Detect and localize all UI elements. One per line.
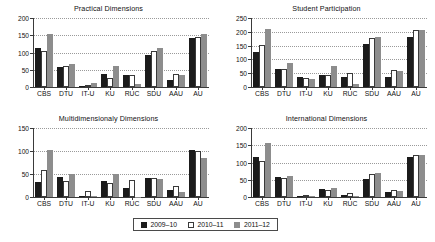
bar-group [295, 18, 317, 87]
bar [157, 179, 162, 197]
x-axis-tick-label: KU [99, 90, 121, 97]
bar [113, 174, 118, 197]
bar [331, 66, 336, 87]
bar-group [273, 18, 295, 87]
white-square-swatch [188, 222, 194, 228]
x-axis-tick-label: IT-U [77, 200, 99, 207]
x-axis-tick-label: IT-U [77, 90, 99, 97]
x-axis-tick-label: SDU [361, 90, 383, 97]
bar-groups [33, 18, 209, 87]
bar-group [273, 128, 295, 197]
bar [41, 51, 46, 87]
bar [113, 66, 118, 87]
x-axis-tick-label: CBS [251, 90, 273, 97]
bar [41, 170, 46, 197]
bar-group [187, 128, 209, 197]
bar-group [405, 128, 427, 197]
bar [189, 150, 194, 197]
bar [287, 176, 292, 197]
x-axis-tick-label: KU [99, 200, 121, 207]
bar [419, 30, 424, 87]
bar [129, 180, 134, 197]
x-axis-labels: CBSDTUIT-UKURUCSDUAAUAU [251, 90, 427, 97]
bar [369, 174, 374, 197]
x-axis-tick-label: DTU [55, 90, 77, 97]
bar-group [121, 128, 143, 197]
x-axis-tick-label: KU [317, 200, 339, 207]
bar [57, 177, 62, 197]
x-axis-tick-label: SDU [143, 200, 165, 207]
bar [297, 77, 302, 87]
bar [107, 78, 112, 87]
x-axis-tick-label: DTU [55, 200, 77, 207]
bar-group [55, 18, 77, 87]
legend-label: 2009–10 [151, 221, 177, 228]
figure-multi-panel-bar-charts: Practical Dimensions050100150200CBSDTUIT… [0, 0, 435, 242]
x-axis-tick-label: AU [187, 90, 209, 97]
x-axis-tick-label: RUC [339, 90, 361, 97]
bar [281, 69, 286, 87]
bar [157, 48, 162, 87]
x-axis-tick-label: RUC [339, 200, 361, 207]
legend-label: 2011–12 [244, 221, 270, 228]
bar-group [361, 18, 383, 87]
bar-group [143, 18, 165, 87]
bar [151, 178, 156, 197]
x-axis-tick-label: RUC [121, 90, 143, 97]
bar-group [165, 18, 187, 87]
bar [407, 37, 412, 88]
x-axis-labels: CBSDTUIT-UKURUCSDUAAUAU [33, 90, 209, 97]
x-axis-tick-label: AU [187, 200, 209, 207]
bar [375, 173, 380, 197]
x-axis-tick-label: AU [405, 200, 427, 207]
bar [69, 174, 74, 197]
bar [35, 182, 40, 197]
bar-group [77, 128, 99, 197]
bar [179, 75, 184, 87]
bar [385, 77, 390, 87]
bar [253, 157, 258, 197]
bar-group [317, 128, 339, 197]
bar [309, 79, 314, 87]
bar [391, 190, 396, 197]
x-axis-tick-label: SDU [361, 200, 383, 207]
x-axis-tick-label: AAU [383, 90, 405, 97]
bar [189, 38, 194, 87]
bar [129, 75, 134, 87]
x-axis-tick-label: CBS [33, 200, 55, 207]
bar [419, 155, 424, 197]
bar [275, 177, 280, 197]
bar [145, 178, 150, 197]
x-axis-labels: CBSDTUIT-UKURUCSDUAAUAU [33, 200, 209, 207]
bar-group [143, 128, 165, 197]
bar-group [339, 128, 361, 197]
bar [101, 181, 106, 197]
gray-square-swatch [234, 222, 240, 228]
bar-group [251, 128, 273, 197]
chart-panel-2: Multidimensionaly Dimensions050100150CBS… [0, 112, 217, 222]
chart-title: International Dimensions [218, 114, 435, 123]
bar [167, 80, 172, 87]
bar [167, 190, 172, 197]
bar [173, 74, 178, 87]
bar-groups [251, 128, 427, 197]
bar [101, 74, 106, 87]
bar-group [99, 128, 121, 197]
bar [69, 64, 74, 87]
chart-panel-1: Student Participation050100150200250CBSD… [218, 2, 435, 112]
chart-title: Student Participation [218, 4, 435, 13]
bar [281, 178, 286, 197]
bar-groups [33, 128, 209, 197]
bar [287, 63, 292, 87]
bar-group [339, 18, 361, 87]
bar [173, 186, 178, 198]
bar [397, 71, 402, 87]
bar-group [99, 18, 121, 87]
bar-group [33, 18, 55, 87]
x-axis-tick-label: KU [317, 90, 339, 97]
bar-group [317, 18, 339, 87]
bar [265, 143, 270, 198]
bar [107, 183, 112, 197]
x-axis-tick-label: AAU [165, 200, 187, 207]
x-axis-tick-label: AU [405, 90, 427, 97]
